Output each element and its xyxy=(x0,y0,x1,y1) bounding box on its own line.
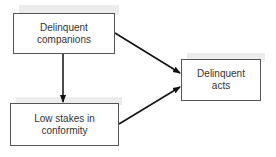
node-label-line: Delinquent xyxy=(37,22,91,34)
node-label-line: Low stakes in xyxy=(34,113,95,125)
node-low-stakes-in-conformity: Low stakes in conformity xyxy=(10,103,119,146)
node-label-line: conformity xyxy=(34,125,95,137)
edge-stakes-to-acts xyxy=(119,87,180,124)
node-label-line: acts xyxy=(197,80,245,92)
node-label-line: Delinquent xyxy=(197,68,245,80)
node-delinquent-companions: Delinquent companions xyxy=(13,13,115,54)
edge-companions-to-acts xyxy=(115,33,180,73)
node-label-line: companions xyxy=(37,34,91,46)
node-delinquent-acts: Delinquent acts xyxy=(181,59,261,101)
